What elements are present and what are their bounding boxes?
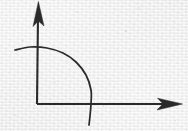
vertical-axis-line xyxy=(37,16,38,104)
axes-diagram xyxy=(0,0,188,131)
quarter-arc-curve xyxy=(15,47,91,125)
figure-canvas: hand-drawn quarter-arc with coordinate a… xyxy=(0,0,188,131)
